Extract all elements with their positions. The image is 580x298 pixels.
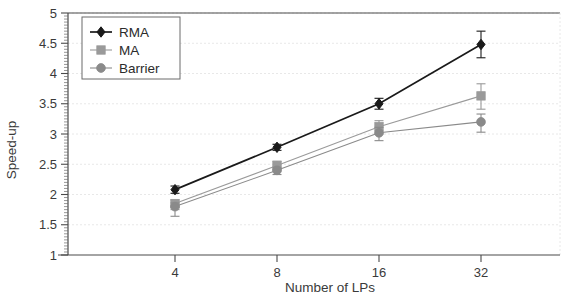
x-tick-label: 4	[171, 265, 178, 280]
x-tick-label: 32	[474, 265, 488, 280]
legend-label: RMA	[119, 25, 149, 40]
y-tick-label: 4	[50, 66, 57, 81]
x-tick-label: 16	[372, 265, 386, 280]
y-tick-label: 1.5	[39, 217, 57, 232]
y-tick-label: 4.5	[39, 36, 57, 51]
data-point-marker	[97, 46, 105, 54]
chart-legend: RMAMABarrier	[82, 17, 180, 79]
data-point-marker	[375, 128, 384, 137]
y-tick-label: 2	[50, 187, 57, 202]
data-point-marker	[477, 92, 485, 100]
chart-canvas: 11.522.533.544.55 481632 RMAMABarrier Sp…	[0, 0, 580, 298]
data-point-marker	[97, 64, 106, 73]
speedup-line-chart: 11.522.533.544.55 481632 RMAMABarrier Sp…	[0, 0, 580, 298]
y-axis-title: Speed-up	[4, 121, 19, 180]
y-tick-label: 3	[50, 127, 57, 142]
x-axis-title: Number of LPs	[285, 280, 375, 295]
y-tick-label: 5	[50, 6, 57, 21]
x-tick-label: 8	[273, 265, 280, 280]
legend-label: MA	[119, 43, 139, 58]
legend-label: Barrier	[119, 61, 160, 76]
y-tick-label: 2.5	[39, 157, 57, 172]
data-point-marker	[171, 202, 180, 211]
y-tick-label: 1	[50, 248, 57, 263]
y-tick-label: 3.5	[39, 96, 57, 111]
data-point-marker	[477, 118, 486, 127]
data-point-marker	[273, 166, 282, 175]
